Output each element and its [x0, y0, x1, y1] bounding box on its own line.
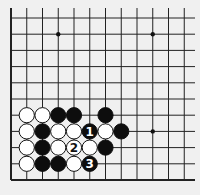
black-stone: [35, 140, 50, 155]
move-number: 1: [86, 125, 94, 139]
white-stone: [51, 124, 66, 139]
white-stone: [66, 156, 81, 171]
black-stone: [98, 108, 113, 123]
black-stone: [98, 140, 113, 155]
star-point: [56, 32, 60, 36]
white-stone: [82, 140, 97, 155]
black-stone: [114, 124, 129, 139]
move-number: 3: [86, 157, 94, 171]
black-stone: [51, 156, 66, 171]
white-stone: [19, 140, 34, 155]
black-stone-move-3: 3: [82, 156, 97, 171]
white-stone: [66, 124, 81, 139]
black-stone: [66, 108, 81, 123]
white-stone-move-2: 2: [66, 140, 81, 155]
black-stone: [35, 156, 50, 171]
white-stone: [51, 140, 66, 155]
star-point: [151, 32, 155, 36]
white-stone: [19, 124, 34, 139]
move-number: 2: [70, 141, 78, 155]
black-stone: [51, 108, 66, 123]
star-point: [151, 129, 155, 133]
white-stone: [19, 108, 34, 123]
white-stone: [19, 156, 34, 171]
black-stone-move-1: 1: [82, 124, 97, 139]
go-board: 123: [0, 0, 200, 195]
black-stone: [35, 124, 50, 139]
white-stone: [35, 108, 50, 123]
white-stone: [98, 124, 113, 139]
